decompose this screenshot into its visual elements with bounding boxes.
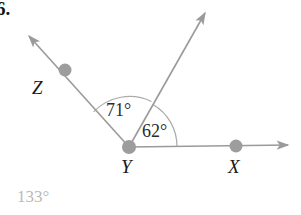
point-label-x: X <box>228 157 240 176</box>
point-dot-x <box>230 140 243 153</box>
problem-number: 6. <box>0 0 10 18</box>
point-dot-z <box>59 64 72 77</box>
angle-measure-label-71: 71° <box>106 101 131 119</box>
ray-yx <box>129 145 288 147</box>
point-label-y: Y <box>121 157 132 176</box>
ray-yz <box>29 36 129 147</box>
angle-measure-label-62: 62° <box>142 122 167 140</box>
geometry-figure: 6. Z Y X 71° 62° 133° <box>0 0 301 215</box>
figure-drawing-canvas <box>0 0 301 215</box>
point-dot-y <box>122 140 136 154</box>
answer-value: 133° <box>17 188 49 205</box>
point-label-z: Z <box>32 78 43 97</box>
